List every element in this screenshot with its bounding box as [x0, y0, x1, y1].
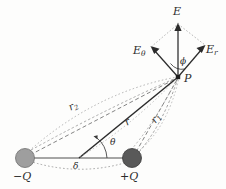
label-negative-charge: −Q	[13, 171, 31, 182]
label-positive-charge: +Q	[120, 171, 138, 182]
parallelogram-side-left	[151, 24, 178, 47]
E-r-vector-arrowhead	[197, 45, 206, 53]
theta-arc-arrowhead	[94, 135, 98, 139]
label-P: P	[184, 73, 191, 84]
aux-convergence-line-outer	[140, 78, 179, 150]
label-phi: ϕ	[180, 57, 186, 66]
dipole-field-diagram: E Eθ Er ϕ P r2 r r1 θ δ −Q +Q	[0, 0, 226, 189]
E-theta-vector-shaft	[155, 51, 179, 78]
label-E-r: Er	[206, 44, 218, 57]
positive-charge-circle	[123, 149, 142, 168]
parallelogram-side-right	[178, 24, 205, 45]
E-vector-arrowhead	[174, 23, 181, 32]
label-E-r-sub: r	[214, 48, 218, 57]
diagram-canvas	[0, 0, 226, 189]
delta-separation-arc	[26, 160, 131, 169]
label-E-theta-base: E	[133, 44, 141, 57]
label-E-theta-sub: θ	[141, 49, 146, 58]
negative-charge-circle	[16, 149, 35, 168]
theta-angle-arc	[97, 138, 108, 159]
label-delta: δ	[73, 162, 78, 171]
E-theta-vector-arrowhead	[151, 46, 160, 54]
point-P-marker	[176, 75, 180, 79]
label-E-theta: Eθ	[133, 45, 146, 58]
label-E-r-base: E	[206, 43, 214, 56]
label-E: E	[173, 6, 181, 17]
label-theta: θ	[110, 138, 115, 147]
